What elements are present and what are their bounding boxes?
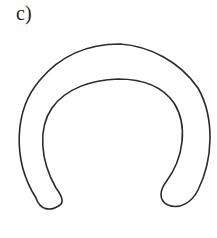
- horseshoe-shape: [0, 0, 217, 238]
- horseshoe-outline: [19, 44, 210, 209]
